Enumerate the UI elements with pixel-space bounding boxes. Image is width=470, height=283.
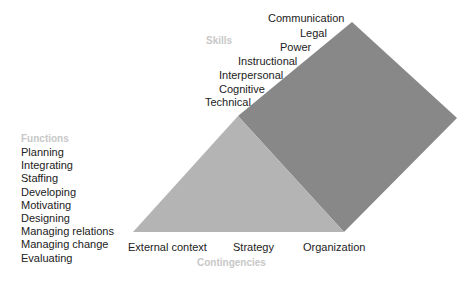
contingencies-header: Contingencies — [197, 257, 266, 268]
function-item: Designing — [21, 212, 114, 225]
function-item: Developing — [21, 186, 114, 199]
skill-item: Power — [280, 41, 311, 54]
function-item: Evaluating — [21, 252, 114, 265]
function-item: Planning — [21, 146, 114, 159]
contingency-item: Strategy — [233, 241, 274, 254]
contingency-item: External context — [128, 241, 207, 254]
skill-item: Legal — [300, 27, 327, 40]
function-item: Managing relations — [21, 225, 114, 238]
skill-item: Technical — [205, 96, 251, 109]
skill-item: Interpersonal — [219, 69, 283, 82]
functions-list: Planning Integrating Staffing Developing… — [21, 146, 114, 265]
function-item: Managing change — [21, 238, 114, 251]
function-item: Staffing — [21, 172, 114, 185]
functions-header: Functions — [21, 133, 69, 144]
function-item: Integrating — [21, 159, 114, 172]
function-item: Motivating — [21, 199, 114, 212]
skill-item: Instructional — [238, 55, 297, 68]
skill-item: Cognitive — [219, 83, 265, 96]
skill-item: Communication — [268, 12, 344, 25]
contingency-item: Organization — [303, 241, 365, 254]
skills-header: Skills — [206, 35, 232, 46]
